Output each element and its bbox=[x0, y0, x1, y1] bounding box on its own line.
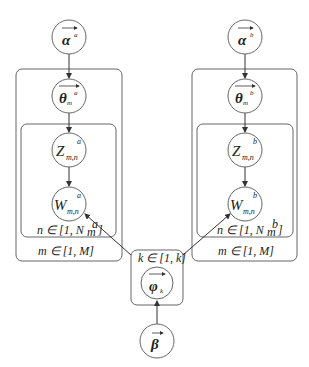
node-theta-a: θ m a bbox=[52, 79, 86, 113]
svg-text:β: β bbox=[150, 336, 159, 352]
svg-text:W: W bbox=[230, 197, 244, 213]
svg-text:b: b bbox=[253, 137, 257, 146]
node-w-a: W m,n a bbox=[52, 187, 86, 221]
node-alpha-b: α b bbox=[228, 20, 262, 54]
svg-text:m,n: m,n bbox=[243, 207, 255, 216]
node-alpha-a: α a bbox=[52, 20, 86, 54]
svg-text:φ: φ bbox=[149, 278, 158, 294]
svg-text:]: ] bbox=[277, 223, 283, 237]
svg-text:Z: Z bbox=[56, 143, 65, 159]
svg-text:α: α bbox=[238, 32, 247, 48]
plate-diagram: α a θ m a Z m,n a W m,n a α b θ m b Z m,… bbox=[0, 0, 309, 367]
node-w-b: W m,n b bbox=[228, 187, 262, 221]
svg-text:θ: θ bbox=[59, 90, 67, 106]
svg-text:m,n: m,n bbox=[66, 153, 78, 162]
svg-text:a: a bbox=[77, 137, 81, 146]
right-outer-plate-label: m ∈ [1, M] bbox=[218, 244, 274, 258]
svg-text:θ: θ bbox=[235, 90, 243, 106]
svg-text:a: a bbox=[74, 89, 78, 97]
node-beta: β bbox=[140, 324, 174, 358]
svg-text:m: m bbox=[243, 99, 248, 107]
node-z-b: Z m,n b bbox=[228, 133, 262, 167]
svg-text:m,n: m,n bbox=[242, 153, 254, 162]
svg-text:b: b bbox=[253, 191, 257, 200]
left-outer-plate-label: m ∈ [1, M] bbox=[38, 244, 94, 258]
node-phi: φ k bbox=[141, 267, 173, 299]
node-z-a: Z m,n a bbox=[52, 133, 86, 167]
svg-text:W: W bbox=[54, 197, 68, 213]
svg-text:]: ] bbox=[97, 223, 103, 237]
svg-text:m,n: m,n bbox=[67, 207, 79, 216]
svg-text:n ∈ [1, N: n ∈ [1, N bbox=[217, 223, 265, 237]
svg-text:Z: Z bbox=[232, 143, 241, 159]
svg-text:b: b bbox=[250, 31, 254, 39]
svg-text:a: a bbox=[77, 191, 81, 200]
svg-text:α: α bbox=[62, 32, 71, 48]
svg-text:a: a bbox=[74, 31, 78, 39]
svg-text:n ∈ [1, N: n ∈ [1, N bbox=[37, 223, 85, 237]
svg-text:m: m bbox=[67, 99, 72, 107]
svg-text:b: b bbox=[250, 89, 254, 97]
center-plate-label: k ∈ [1, k] bbox=[138, 251, 186, 265]
node-theta-b: θ m b bbox=[228, 79, 262, 113]
